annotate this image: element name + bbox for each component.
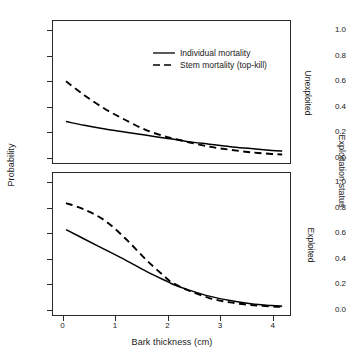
y-axis-title: Probability — [6, 120, 16, 210]
x-tick-mark — [220, 316, 221, 321]
panel-unexploited-plot-area — [53, 21, 290, 163]
x-axis-title: Bark thickness (cm) — [52, 337, 292, 347]
x-tick-label: 3 — [210, 322, 230, 330]
legend-label-stem-mortality: Stem mortality (top-kill) — [180, 59, 267, 71]
x-tick-label: 1 — [105, 322, 125, 330]
strip-label-exploited: Exploited — [306, 195, 316, 295]
x-tick-mark — [115, 316, 116, 321]
legend-label-individual-mortality: Individual mortality — [180, 47, 250, 59]
y-tick-label: 1.0 — [300, 26, 346, 34]
series-line-individual-mortality — [66, 122, 282, 152]
x-tick-mark — [273, 316, 274, 321]
series-line-stem-mortality-top-kill — [66, 81, 282, 154]
x-tick-mark — [63, 316, 64, 321]
series-line-stem-mortality-top-kill — [66, 203, 282, 307]
y-tick-label: 0.0 — [300, 306, 346, 314]
figure-bottom-margin — [0, 356, 346, 364]
y-tick-label: 0.0 — [300, 154, 346, 162]
x-tick-label: 4 — [263, 322, 283, 330]
strip-label-unexploited: Unexploited — [303, 43, 313, 143]
panel-exploited — [52, 172, 291, 316]
panel-unexploited — [52, 20, 291, 164]
y-tick-label: 1.0 — [300, 178, 346, 186]
x-tick-label: 0 — [53, 322, 73, 330]
legend-entry-individual-mortality: Individual mortality — [152, 47, 267, 59]
series-line-individual-mortality — [66, 230, 282, 307]
x-tick-label: 2 — [158, 322, 178, 330]
legend-key-dashed-line-icon — [152, 60, 176, 70]
panel-exploited-plot-area — [53, 173, 290, 315]
legend-key-solid-line-icon — [152, 48, 176, 58]
legend: Individual mortality Stem mortality (top… — [152, 47, 267, 71]
x-tick-mark — [168, 316, 169, 321]
legend-entry-stem-mortality: Stem mortality (top-kill) — [152, 59, 267, 71]
